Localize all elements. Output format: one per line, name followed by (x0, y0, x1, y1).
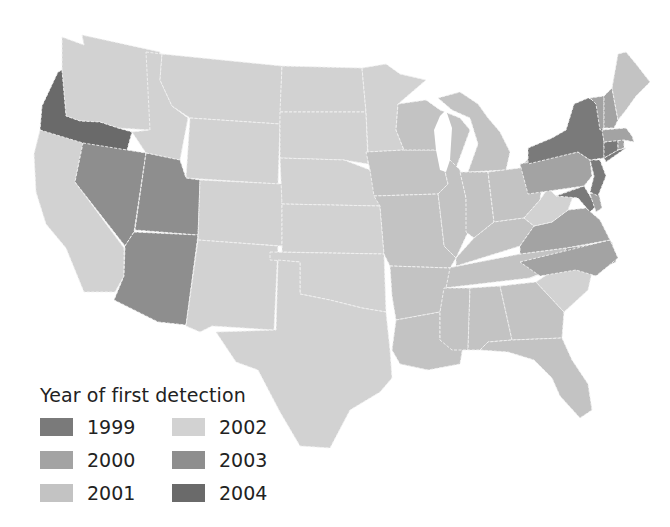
state-arizona (114, 232, 198, 325)
legend-label-2000: 2000 (87, 449, 135, 471)
legend-label-2001: 2001 (87, 482, 135, 504)
legend-label-1999: 1999 (87, 416, 135, 438)
state-new-mexico (186, 240, 278, 332)
legend-swatch-2003 (172, 451, 205, 469)
state-wyoming (186, 118, 280, 184)
legend-item-2001: 2001 (40, 480, 172, 505)
map-legend: Year of first detection 1999 2002 2000 2… (40, 384, 304, 505)
state-washington (62, 35, 160, 130)
legend-swatch-2004 (172, 484, 205, 502)
legend-item-1999: 1999 (40, 414, 172, 439)
state-new-york (528, 98, 604, 164)
state-south-dakota (280, 112, 368, 164)
state-kansas (282, 204, 384, 254)
state-north-dakota (280, 66, 366, 112)
legend-label-2004: 2004 (219, 482, 267, 504)
legend-item-2003: 2003 (172, 447, 304, 472)
legend-swatch-2001 (40, 484, 73, 502)
legend-swatch-2002 (172, 418, 205, 436)
legend-label-2003: 2003 (219, 449, 267, 471)
legend-item-2002: 2002 (172, 414, 304, 439)
state-colorado (198, 180, 282, 246)
state-florida (480, 338, 592, 418)
state-new-jersey (590, 160, 606, 196)
legend-swatch-1999 (40, 418, 73, 436)
state-iowa (366, 150, 448, 196)
legend-swatch-2000 (40, 451, 73, 469)
state-mississippi (440, 288, 470, 350)
legend-label-2002: 2002 (219, 416, 267, 438)
state-massachusetts (602, 128, 634, 142)
legend-item-2000: 2000 (40, 447, 172, 472)
legend-title: Year of first detection (40, 384, 304, 406)
state-nebraska (280, 158, 380, 206)
state-maine (612, 52, 650, 120)
legend-item-2004: 2004 (172, 480, 304, 505)
state-rhode-island (618, 140, 624, 150)
